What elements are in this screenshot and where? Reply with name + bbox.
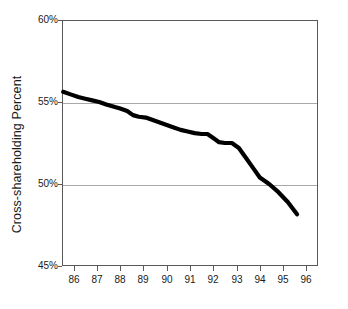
y-tick-label-60: 60% (24, 15, 58, 25)
x-tick-mark-88 (120, 266, 121, 271)
x-tick-mark-96 (306, 266, 307, 271)
y-tick-label-50: 50% (24, 179, 58, 189)
x-tick-mark-87 (97, 266, 98, 271)
x-tick-mark-94 (260, 266, 261, 271)
y-tick-mark-45 (58, 266, 62, 267)
x-tick-mark-95 (283, 266, 284, 271)
chart-figure: Cross-shareholding Percent 60%55%50%45% … (0, 0, 348, 309)
plot-area (62, 20, 318, 266)
x-tick-mark-91 (190, 266, 191, 271)
gridline-55 (63, 103, 317, 104)
x-tick-mark-89 (143, 266, 144, 271)
y-tick-label-55: 55% (24, 97, 58, 107)
y-tick-label-45: 45% (24, 261, 58, 271)
x-tick-mark-90 (167, 266, 168, 271)
x-tick-mark-92 (213, 266, 214, 271)
x-tick-label-96: 96 (292, 274, 320, 285)
x-tick-mark-93 (237, 266, 238, 271)
gridline-50 (63, 185, 317, 186)
x-tick-mark-86 (74, 266, 75, 271)
